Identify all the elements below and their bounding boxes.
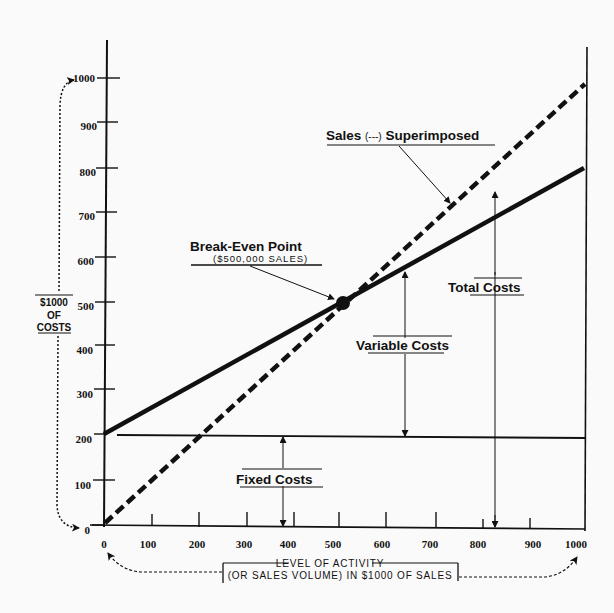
- svg-text:OF: OF: [47, 310, 61, 321]
- total-costs-annotation: Total Costs: [448, 192, 524, 527]
- svg-text:300: 300: [77, 388, 94, 400]
- svg-text:0: 0: [85, 524, 91, 536]
- y-axis: [104, 40, 107, 527]
- svg-text:0: 0: [101, 538, 107, 550]
- svg-text:500: 500: [325, 538, 342, 550]
- x-tick-labels: 0 100 200 300 400 500 600 700 800 900 10…: [101, 538, 587, 550]
- break-even-annotation: Break-Even Point ($500,000 SALES): [190, 239, 334, 299]
- svg-text:500: 500: [78, 300, 95, 312]
- svg-text:Total Costs: Total Costs: [448, 280, 521, 295]
- svg-text:($500,000 SALES): ($500,000 SALES): [213, 253, 308, 264]
- svg-text:1000: 1000: [565, 538, 588, 550]
- svg-text:200: 200: [76, 433, 93, 445]
- sales-annotation: Sales (---) Superimposed: [326, 128, 495, 203]
- svg-text:100: 100: [75, 479, 92, 491]
- svg-text:100: 100: [140, 538, 157, 550]
- svg-text:700: 700: [422, 538, 439, 550]
- svg-text:400: 400: [77, 344, 94, 356]
- svg-text:900: 900: [81, 120, 98, 132]
- svg-text:400: 400: [280, 538, 297, 550]
- variable-costs-annotation: Variable Costs: [356, 272, 452, 436]
- svg-text:Variable Costs: Variable Costs: [356, 338, 449, 353]
- svg-text:800: 800: [470, 538, 487, 550]
- svg-text:200: 200: [189, 538, 206, 550]
- fixed-costs-annotation: Fixed Costs: [236, 437, 323, 526]
- svg-text:$1000: $1000: [40, 297, 68, 308]
- x-axis: [90, 525, 585, 529]
- break-even-chart: 1000 900 800 700 600 500 400 300 200 100…: [0, 0, 614, 613]
- svg-text:800: 800: [80, 166, 97, 178]
- svg-text:900: 900: [525, 538, 542, 550]
- svg-text:LEVEL OF ACTIVITY: LEVEL OF ACTIVITY: [276, 558, 384, 569]
- svg-text:600: 600: [78, 255, 95, 267]
- y-tick-labels: 1000 900 800 700 600 500 400 300 200 100…: [73, 72, 98, 536]
- break-even-point-marker: [336, 296, 350, 310]
- svg-text:1000: 1000: [73, 72, 96, 84]
- svg-text:Fixed Costs: Fixed Costs: [236, 472, 313, 487]
- y-axis-label: $1000 OF COSTS: [35, 80, 79, 528]
- fixed-costs-line: [117, 435, 586, 438]
- svg-text:700: 700: [79, 210, 96, 222]
- x-axis-label: LEVEL OF ACTIVITY (OR SALES VOLUME) IN $…: [108, 553, 577, 583]
- svg-text:COSTS: COSTS: [37, 322, 72, 333]
- svg-text:600: 600: [374, 538, 391, 550]
- right-boundary-line: [585, 47, 587, 531]
- svg-text:(OR SALES VOLUME) IN $1000 OF: (OR SALES VOLUME) IN $1000 OF SALES: [228, 570, 453, 581]
- svg-text:Break-Even Point: Break-Even Point: [190, 239, 302, 254]
- svg-text:300: 300: [236, 538, 253, 550]
- svg-text:Sales (---) Superimposed: Sales (---) Superimposed: [326, 128, 479, 143]
